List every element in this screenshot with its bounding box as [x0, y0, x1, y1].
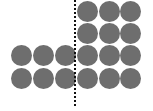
- circle-dot: [120, 23, 141, 44]
- circle-dot: [77, 45, 98, 66]
- circle-dot: [99, 23, 120, 44]
- circle-dot: [55, 45, 76, 66]
- circle-dot: [33, 68, 54, 89]
- circle-dot: [120, 68, 141, 89]
- circle-dot: [77, 23, 98, 44]
- circle-dot: [11, 45, 32, 66]
- circle-dot: [11, 68, 32, 89]
- circle-dot: [77, 1, 98, 22]
- circle-dot: [33, 45, 54, 66]
- circle-dot: [99, 68, 120, 89]
- circle-dot: [99, 45, 120, 66]
- circle-dot: [77, 68, 98, 89]
- dotted-divider-line: [74, 0, 76, 108]
- circle-dot: [120, 1, 141, 22]
- circle-dot: [99, 1, 120, 22]
- circle-dot: [120, 45, 141, 66]
- circle-dot: [55, 68, 76, 89]
